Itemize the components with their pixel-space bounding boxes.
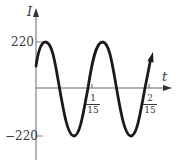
y-axis-arrow-icon — [33, 8, 39, 17]
x-tick-2-denominator: 15 — [143, 104, 157, 115]
x-tick-label-1-15: 1 15 — [86, 94, 100, 115]
curve-arrow-icon — [148, 52, 154, 63]
x-axis-arrow-icon — [163, 85, 172, 91]
x-tick-2-numerator: 2 — [143, 94, 157, 104]
y-tick-label-220: 220 — [11, 36, 34, 48]
y-tick-label-neg220: −220 — [5, 130, 38, 142]
y-axis-label: I — [27, 5, 32, 18]
x-tick-label-2-15: 2 15 — [143, 94, 157, 115]
sine-curve — [36, 42, 151, 136]
x-tick-1-denominator: 15 — [86, 104, 100, 115]
x-axis-label: t — [162, 70, 167, 83]
x-tick-1-numerator: 1 — [86, 94, 100, 104]
